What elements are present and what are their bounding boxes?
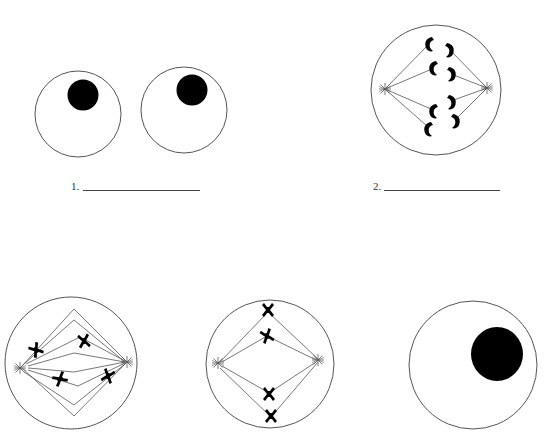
nucleus: [177, 75, 208, 106]
label-1-answer-blank[interactable]: [83, 190, 200, 191]
cell-5-interphase: [409, 301, 537, 429]
centriole-icon: [14, 362, 26, 374]
centriole-icon: [212, 357, 224, 369]
cell-1b-interphase: [141, 67, 227, 153]
cell-1a-interphase: [35, 71, 121, 157]
label-2-answer-blank[interactable]: [384, 190, 500, 191]
cell-4-metaphase: [206, 300, 334, 428]
label-2-number: 2.: [373, 180, 381, 192]
centriole-icon: [481, 82, 493, 94]
cell-3-spindle-forming: [5, 297, 137, 429]
centriole-icon: [121, 356, 133, 368]
cell-division-diagram: [0, 0, 559, 440]
nucleus: [68, 80, 99, 111]
centriole-icon: [379, 83, 391, 95]
centriole-icon: [312, 354, 324, 366]
cell-2-anaphase: [371, 25, 501, 155]
label-1-number: 1.: [71, 180, 79, 192]
nucleus: [471, 327, 523, 381]
